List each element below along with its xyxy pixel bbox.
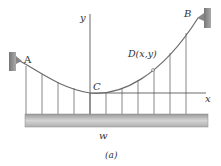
- label-a: A: [23, 54, 32, 65]
- label-c: C: [93, 81, 101, 92]
- label-y-axis: y: [79, 12, 86, 23]
- label-x-axis: x: [205, 93, 211, 104]
- deck-load: [25, 114, 208, 127]
- support-b-icon: [197, 8, 211, 28]
- cable-diagram: A B C D(x,y) x y w (a): [0, 0, 221, 166]
- label-b: B: [183, 8, 191, 19]
- hangers: [26, 33, 186, 114]
- label-d: D(x,y): [127, 48, 157, 59]
- point-d-marker: [152, 69, 155, 72]
- support-a-icon: [9, 52, 22, 71]
- figure-caption: (a): [105, 150, 118, 160]
- cable-curve: [20, 18, 198, 93]
- label-load-w: w: [99, 130, 108, 141]
